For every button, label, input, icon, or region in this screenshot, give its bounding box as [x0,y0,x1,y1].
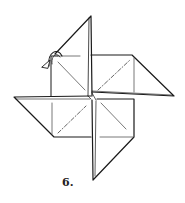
top-left-square [51,56,85,96]
step-number: 6. [62,176,73,189]
bottom-flap [92,99,134,180]
valley-fold-line-top-right [98,60,130,90]
valley-fold-line-bottom-left [58,106,86,133]
pinwheel-diagram [0,0,185,203]
fold-arrow-icon [42,51,62,68]
left-flap [14,96,91,137]
right-flap [91,55,174,96]
